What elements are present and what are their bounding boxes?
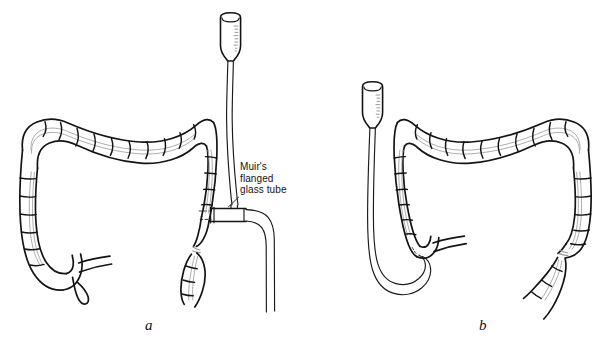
medical-illustration-svg: [0, 0, 611, 348]
callout-line-3: glass tube: [240, 184, 287, 196]
funnel-reservoir-a: [221, 13, 241, 61]
panel-caption-a: a: [145, 317, 153, 334]
callout-line-2: flanged: [240, 173, 287, 185]
figure-background: [0, 0, 611, 348]
callout-line-1: Muir's: [240, 161, 287, 173]
panel-caption-b: b: [479, 317, 487, 334]
funnel-reservoir-b: [363, 82, 383, 128]
callout-muirs-flanged-glass-tube: Muir's flanged glass tube: [240, 161, 287, 196]
figure-container: Muir's flanged glass tube a b: [0, 0, 611, 348]
